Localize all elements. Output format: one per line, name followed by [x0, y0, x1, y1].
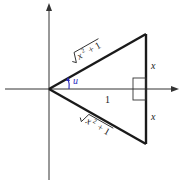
y-axis-arrow-icon: [46, 3, 52, 11]
svg-text:+ 1: + 1: [84, 39, 103, 56]
lower-hypotenuse: [49, 89, 146, 144]
upper-side-label: x: [150, 60, 156, 71]
triangle-diagram: u x 2 + 1 x 2 + 1 x x 1: [0, 0, 181, 184]
angle-label: u: [73, 75, 78, 86]
x-axis-arrow-icon: [171, 86, 179, 92]
lower-side-label: x: [150, 111, 156, 122]
base-label: 1: [105, 94, 110, 105]
